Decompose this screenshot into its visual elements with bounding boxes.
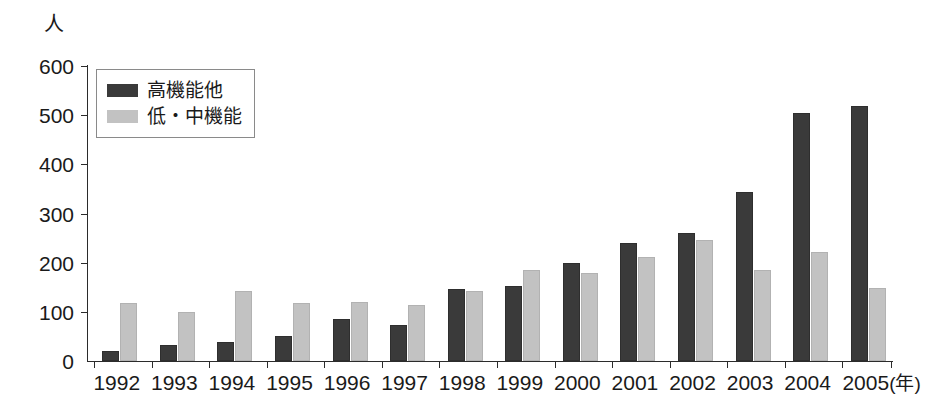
dark-square-swatch-icon [107, 84, 138, 97]
bar [563, 263, 580, 361]
x-axis-tick [727, 361, 728, 368]
bar [581, 273, 598, 361]
chart-legend: 高機能他 低・中機能 [96, 69, 255, 138]
x-axis-tick-label: 1998 [433, 372, 491, 393]
y-axis-tick [81, 263, 88, 264]
x-axis-tick-label: 1996 [318, 372, 376, 393]
bar [754, 270, 771, 361]
bar [293, 303, 310, 361]
x-axis-tick-label: 1993 [146, 372, 204, 393]
x-axis-tick-label: 1999 [491, 372, 549, 393]
x-axis-tick [324, 361, 325, 368]
x-axis-tick [382, 361, 383, 368]
x-axis-tick [891, 361, 892, 368]
x-axis-tick-label: 2002 [664, 372, 722, 393]
x-axis-tick-label: 1994 [203, 372, 261, 393]
bar [793, 113, 810, 361]
x-axis-tick [267, 361, 268, 368]
x-axis-tick-label: 2000 [549, 372, 607, 393]
y-axis-tick-label: 500 [26, 105, 74, 126]
bar [217, 342, 234, 361]
y-axis-tick-label: 600 [26, 56, 74, 77]
bar [696, 240, 713, 361]
y-axis-tick-label: 0 [26, 351, 74, 372]
bar [351, 302, 368, 361]
bar [160, 345, 177, 361]
y-axis-tick-label: 400 [26, 154, 74, 175]
y-axis-tick [81, 214, 88, 215]
legend-item: 高機能他 [107, 77, 242, 103]
x-axis-tick [785, 361, 786, 368]
x-axis-tick [555, 361, 556, 368]
y-axis-tick-label: 300 [26, 203, 74, 224]
y-axis-tick [81, 164, 88, 165]
x-axis-tick [152, 361, 153, 368]
x-axis-tick [670, 361, 671, 368]
bar [390, 325, 407, 361]
bar [466, 291, 483, 361]
x-axis-tick-label: 1997 [376, 372, 434, 393]
light-square-swatch-icon [107, 110, 138, 123]
bar [523, 270, 540, 361]
bar [102, 351, 119, 361]
bar [736, 192, 753, 361]
bar [448, 289, 465, 361]
bar [869, 288, 886, 361]
x-axis-tick-label: 1995 [261, 372, 319, 393]
x-axis-unit-label: (年) [889, 373, 921, 394]
bar [638, 257, 655, 361]
bar [275, 336, 292, 361]
x-axis-tick [439, 361, 440, 368]
bar [333, 319, 350, 361]
x-axis-tick [497, 361, 498, 368]
x-axis-tick [842, 361, 843, 368]
x-axis-tick [209, 361, 210, 368]
bar [235, 291, 252, 361]
bar [620, 243, 637, 361]
y-axis-tick-label: 200 [26, 252, 74, 273]
bar [408, 305, 425, 361]
legend-item-label: 高機能他 [147, 81, 223, 100]
x-axis-tick-label: 2004 [779, 372, 837, 393]
y-axis-tick [81, 66, 88, 67]
legend-item-label: 低・中機能 [147, 107, 242, 126]
legend-item: 低・中機能 [107, 103, 242, 129]
bar [811, 252, 828, 361]
y-axis-unit-label: 人 [44, 14, 64, 34]
y-axis-tick [81, 115, 88, 116]
bar [120, 303, 137, 361]
bar [178, 312, 195, 361]
x-axis-tick-label: 2003 [721, 372, 779, 393]
x-axis-tick-label: 2005(年) [842, 372, 925, 393]
bar [851, 106, 868, 361]
bar [678, 233, 695, 361]
bar [505, 286, 522, 361]
x-axis-tick [94, 361, 95, 368]
x-axis-tick-label: 2001 [606, 372, 664, 393]
y-axis-tick-label: 100 [26, 301, 74, 322]
x-axis-tick [612, 361, 613, 368]
y-axis-tick [81, 312, 88, 313]
x-axis-tick-label: 1992 [88, 372, 146, 393]
x-axis-line [87, 361, 893, 362]
